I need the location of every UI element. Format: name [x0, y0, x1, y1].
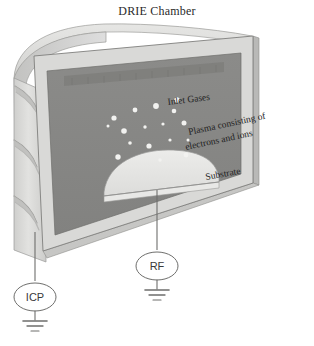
plasma-particle	[107, 125, 110, 128]
icp-ground-icon	[23, 311, 47, 331]
plasma-particle	[111, 115, 116, 120]
plasma-particle	[168, 138, 171, 141]
plasma-particle	[172, 109, 177, 114]
plasma-particle	[146, 143, 151, 148]
diagram-canvas: DRIE Chamber	[0, 0, 314, 346]
plasma-particle	[115, 154, 120, 159]
plasma-particle	[121, 128, 127, 134]
plasma-particle	[158, 158, 161, 161]
rf-ground-icon	[145, 280, 169, 300]
plasma-particle	[161, 122, 164, 125]
plasma-particle	[143, 125, 146, 128]
panel-right-edge	[253, 36, 259, 185]
plasma-particle	[133, 108, 138, 113]
icp-node-label: ICP	[26, 291, 44, 303]
rf-node-label: RF	[150, 260, 165, 272]
plasma-particle	[128, 141, 132, 145]
drie-chamber-diagram: Inlet Gases Plasma consisting of electro…	[0, 0, 314, 346]
plasma-particle	[153, 103, 159, 109]
plasma-particle	[182, 121, 187, 126]
plasma-particle	[184, 153, 189, 158]
